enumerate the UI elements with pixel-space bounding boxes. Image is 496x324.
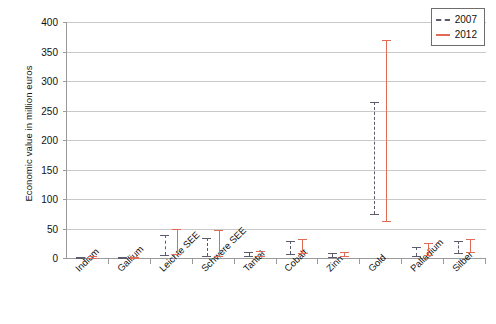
range-bar-cap-high [244, 252, 253, 253]
range-bar-cap-high [328, 253, 337, 254]
y-tick-label: 200 [24, 135, 58, 146]
legend-item-2007[interactable]: 2007 [436, 12, 477, 27]
range-bar-cap-high [286, 241, 295, 242]
range-bar-cap-low [466, 252, 475, 253]
range-bar-cap-high [382, 40, 391, 41]
range-bar-cap-high [160, 235, 169, 236]
y-tick-mark [63, 170, 67, 171]
range-bar-cap-low [382, 221, 391, 222]
gridline [67, 199, 486, 200]
chart-container: Economic value in million euros IndiumGa… [0, 0, 496, 324]
y-tick-mark [63, 52, 67, 53]
gridline [67, 22, 486, 23]
y-tick-mark [63, 111, 67, 112]
gridline [67, 229, 486, 230]
range-bar-cap-low [454, 253, 463, 254]
range-bar-cap-low [412, 256, 421, 257]
range-bar-cap-low [88, 258, 97, 259]
gridline [67, 111, 486, 112]
range-bar-stem [374, 102, 375, 214]
range-bar-cap-low [160, 255, 169, 256]
range-bar-stem [428, 243, 429, 255]
range-bar-cap-low [256, 256, 265, 257]
gridline [67, 81, 486, 82]
y-tick-mark [63, 140, 67, 141]
range-bar-cap-low [130, 258, 139, 259]
range-bar-cap-low [298, 253, 307, 254]
range-bar-stem [219, 230, 220, 256]
range-bar-cap-low [172, 254, 181, 255]
x-tick-mark [359, 258, 360, 264]
gridline [67, 52, 486, 53]
range-bar-stem [386, 40, 387, 222]
x-tick-mark [401, 258, 402, 264]
range-bar-cap-low [244, 256, 253, 257]
range-bar-stem [416, 247, 417, 255]
x-tick-mark [108, 258, 109, 264]
range-bar-stem [207, 238, 208, 256]
range-bar-cap-low [76, 258, 85, 259]
y-tick-label: 300 [24, 76, 58, 87]
range-bar-cap-high [424, 243, 433, 244]
range-bar-cap-low [202, 256, 211, 257]
x-tick-mark [192, 258, 193, 264]
range-bar-stem [302, 239, 303, 254]
x-tick-mark [234, 258, 235, 264]
x-tick-mark [485, 258, 486, 264]
y-tick-label: 400 [24, 17, 58, 28]
cutoff-title [40, 0, 200, 6]
y-tick-label: 50 [24, 223, 58, 234]
range-bar-cap-low [214, 256, 223, 257]
range-bar-stem [290, 241, 291, 254]
gridline [67, 170, 486, 171]
range-bar-cap-low [286, 254, 295, 255]
legend-swatch-2007-icon [436, 19, 450, 21]
range-bar-cap-high [340, 252, 349, 253]
y-tick-mark [63, 229, 67, 230]
range-bar-cap-high [214, 230, 223, 231]
range-bar-cap-high [370, 102, 379, 103]
y-tick-label: 250 [24, 105, 58, 116]
range-bar-cap-low [328, 257, 337, 258]
range-bar-cap-high [466, 239, 475, 240]
range-bar-cap-high [202, 238, 211, 239]
legend-label-2007: 2007 [455, 14, 477, 25]
range-bar-stem [470, 239, 471, 253]
range-bar-cap-high [298, 239, 307, 240]
range-bar-stem [165, 235, 166, 255]
legend[interactable]: 2007 2012 [431, 8, 485, 46]
legend-item-2012[interactable]: 2012 [436, 27, 477, 42]
range-bar-stem [177, 229, 178, 255]
x-tick-mark [150, 258, 151, 264]
y-tick-mark [63, 199, 67, 200]
range-bar-cap-high [454, 241, 463, 242]
range-bar-cap-low [424, 255, 433, 256]
range-bar-stem [458, 241, 459, 253]
y-tick-mark [63, 258, 67, 259]
y-tick-mark [63, 81, 67, 82]
range-bar-cap-low [340, 256, 349, 257]
legend-label-2012: 2012 [455, 29, 477, 40]
y-tick-label: 350 [24, 46, 58, 57]
plot-area [66, 22, 486, 258]
x-tick-mark [276, 258, 277, 264]
gridline [67, 140, 486, 141]
legend-swatch-2012-icon [436, 34, 450, 36]
y-tick-label: 100 [24, 194, 58, 205]
y-tick-label: 150 [24, 164, 58, 175]
y-tick-mark [63, 22, 67, 23]
range-bar-cap-high [256, 251, 265, 252]
range-bar-cap-high [172, 229, 181, 230]
range-bar-cap-high [412, 247, 421, 248]
x-tick-mark [317, 258, 318, 264]
range-bar-cap-low [370, 214, 379, 215]
range-bar-cap-low [118, 258, 127, 259]
x-tick-mark [443, 258, 444, 264]
y-tick-label: 0 [24, 253, 58, 264]
